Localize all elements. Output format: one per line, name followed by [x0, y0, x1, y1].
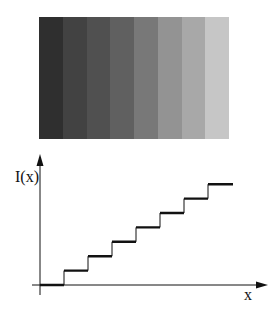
y-axis-label: I(x)	[15, 169, 39, 185]
step-intensity-plot	[0, 0, 279, 317]
x-axis	[32, 282, 268, 289]
x-axis-arrow-icon	[256, 282, 268, 289]
y-axis-arrow-icon	[37, 154, 44, 166]
x-axis-label: x	[244, 287, 252, 303]
